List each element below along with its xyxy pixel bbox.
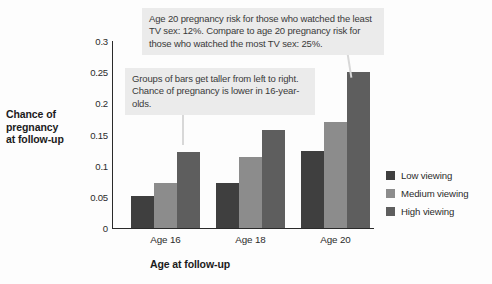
y-axis-tick-label: 0.3 [68,36,108,47]
bar[interactable] [131,196,154,228]
bar[interactable] [301,151,324,228]
y-axis-tick-label: 0.1 [68,160,108,171]
bar[interactable] [177,152,200,228]
bar[interactable] [324,122,347,228]
bar[interactable] [154,183,177,229]
annotation-callout-age20: Age 20 pregnancy risk for those who watc… [142,8,384,55]
legend-item-label: Medium viewing [401,188,468,199]
x-axis-title: Age at follow-up [0,258,380,270]
x-axis-tick-label: Age 20 [296,234,376,245]
legend-item-label: High viewing [401,206,454,217]
chart-canvas: Chance of pregnancy at follow-up 00.050.… [0,0,492,284]
x-axis-tick-label: Age 16 [126,234,206,245]
legend-swatch-icon [386,207,395,216]
bar[interactable] [347,72,370,228]
y-axis-tick-label: 0.25 [68,67,108,78]
legend-item-label: Low viewing [401,170,452,181]
y-axis-tick-label: 0.15 [68,129,108,140]
legend-swatch-icon [386,189,395,198]
legend-item[interactable]: Medium viewing [386,185,468,201]
legend: Low viewingMedium viewingHigh viewing [386,167,468,221]
annotation-callout-trend: Groups of bars get taller from left to r… [125,68,315,115]
legend-item[interactable]: Low viewing [386,167,468,183]
y-axis-tick-label: 0 [68,223,108,234]
bar[interactable] [216,183,239,229]
x-axis-tick-label: Age 18 [211,234,291,245]
y-axis-tick-label: 0.2 [68,98,108,109]
legend-swatch-icon [386,171,395,180]
y-axis-tick-labels: 00.050.10.150.20.250.3 [66,41,108,228]
bar[interactable] [239,157,262,228]
bar[interactable] [262,130,285,228]
legend-item[interactable]: High viewing [386,203,468,219]
x-axis-line [112,228,374,229]
y-axis-tick-label: 0.05 [68,191,108,202]
